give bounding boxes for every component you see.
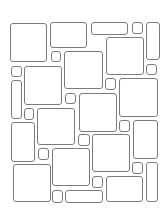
stone-tile [133, 120, 158, 159]
stone-tile [92, 134, 130, 172]
stone-tile [24, 108, 34, 120]
stone-tile [11, 122, 35, 162]
stone-tile [91, 22, 128, 35]
stone-tile [11, 80, 22, 119]
stone-tile [10, 23, 47, 62]
stone-tile [64, 51, 103, 89]
stone-tile [119, 78, 158, 117]
stone-tile [146, 64, 157, 75]
stone-tile [52, 190, 63, 203]
stone-tile [13, 164, 51, 202]
stone-tile [38, 148, 49, 160]
stone-tile [78, 134, 90, 146]
stone-tile [146, 22, 160, 60]
stone-tile [65, 93, 76, 104]
stone-tile [52, 148, 90, 186]
tile-pattern-canvas [0, 0, 166, 212]
stone-tile [65, 190, 103, 203]
stone-tile [146, 162, 158, 202]
stone-tile [51, 51, 61, 62]
stone-tile [132, 162, 143, 174]
stone-tile [37, 108, 75, 145]
stone-tile [132, 22, 143, 34]
stone-tile [24, 66, 62, 105]
stone-tile [106, 37, 144, 75]
stone-tile [92, 176, 103, 188]
stone-tile [106, 176, 143, 202]
stone-tile [11, 66, 22, 77]
stone-tile [105, 78, 116, 90]
stone-tile [79, 93, 117, 132]
stone-tile [50, 22, 87, 48]
stone-tile [119, 120, 130, 132]
